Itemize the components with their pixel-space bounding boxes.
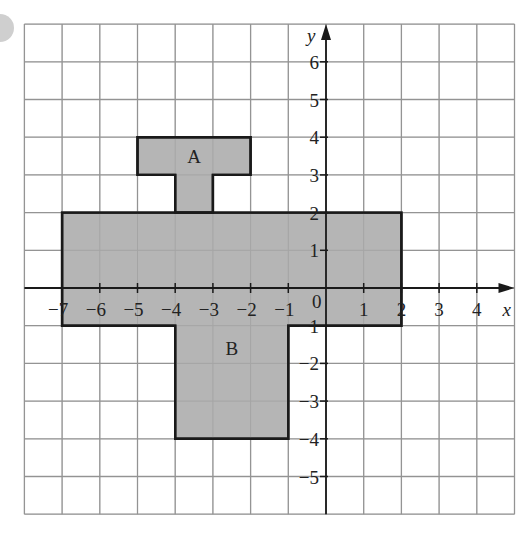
y-tick-label: 6: [310, 52, 320, 73]
x-tick-label: −1: [274, 299, 294, 320]
x-axis-arrow-icon: [499, 283, 515, 293]
y-axis-arrow-icon: [321, 24, 331, 40]
x-tick-label: −5: [123, 299, 143, 320]
y-tick-label: −1: [299, 316, 319, 337]
y-tick-label: 2: [310, 203, 320, 224]
x-tick-label: 3: [434, 299, 444, 320]
x-tick-label: 2: [397, 299, 407, 320]
y-tick-label: −4: [299, 429, 320, 450]
y-tick-label: −3: [299, 391, 319, 412]
x-tick-label: 4: [472, 299, 482, 320]
y-axis-label: y: [305, 25, 316, 46]
y-tick-label: −2: [299, 353, 319, 374]
x-tick-label: −6: [86, 299, 106, 320]
x-tick-label: 1: [359, 299, 369, 320]
shape-label-b: B: [225, 338, 238, 359]
x-axis-label: x: [502, 299, 512, 320]
shape-label-a: A: [187, 146, 201, 167]
coordinate-plane: ABxy0−7−6−5−4−3−2−11234654321−1−2−3−4−5: [0, 0, 526, 539]
y-tick-label: 3: [310, 165, 320, 186]
y-tick-label: 4: [310, 127, 320, 148]
y-tick-label: −5: [299, 467, 319, 488]
x-tick-label: −3: [199, 299, 219, 320]
origin-label: 0: [312, 291, 322, 312]
x-tick-label: −2: [236, 299, 256, 320]
y-tick-label: 5: [310, 90, 320, 111]
x-tick-label: −4: [161, 299, 182, 320]
y-tick-label: 1: [310, 240, 320, 261]
x-tick-label: −7: [48, 299, 68, 320]
